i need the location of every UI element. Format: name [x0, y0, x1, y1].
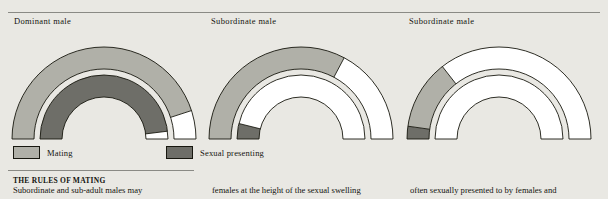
arch-chart: [399, 26, 599, 146]
legend-swatch: [166, 146, 193, 159]
legend-item-sexual-presenting: Sexual presenting: [166, 146, 264, 159]
figure-page: Dominant male Subordinate male Subordina…: [0, 0, 608, 199]
diagram-title: Subordinate male: [409, 16, 474, 26]
diagram-subordinate-male-2: Subordinate male: [399, 16, 599, 142]
arch-chart: [4, 26, 204, 146]
diagram-dominant-male: Dominant male: [4, 16, 204, 142]
arch-chart: [201, 26, 401, 146]
legend-label: Mating: [47, 148, 73, 158]
footer-heading: THE RULES OF MATING: [13, 176, 105, 185]
footer-column-1: Subordinate and sub-adult males may: [13, 185, 142, 195]
diagram-title: Subordinate male: [211, 16, 276, 26]
legend-label: Sexual presenting: [200, 148, 264, 158]
legend: Mating Sexual presenting: [0, 145, 608, 165]
diagram-subordinate-male-1: Subordinate male: [201, 16, 401, 142]
legend-item-mating: Mating: [13, 146, 73, 159]
footer-text-block: THE RULES OF MATING Subordinate and sub-…: [0, 176, 608, 199]
footer-column-2: females at the height of the sexual swel…: [212, 185, 361, 195]
diagram-title: Dominant male: [14, 16, 71, 26]
footer-divider: [8, 170, 194, 171]
arch-svg: [399, 26, 599, 142]
arch-svg: [4, 26, 204, 142]
legend-swatch: [13, 146, 40, 159]
top-divider: [8, 12, 600, 13]
arch-svg: [201, 26, 401, 142]
diagram-row: Dominant male Subordinate male Subordina…: [0, 16, 608, 142]
footer-column-3: often sexually presented to by females a…: [410, 185, 557, 195]
